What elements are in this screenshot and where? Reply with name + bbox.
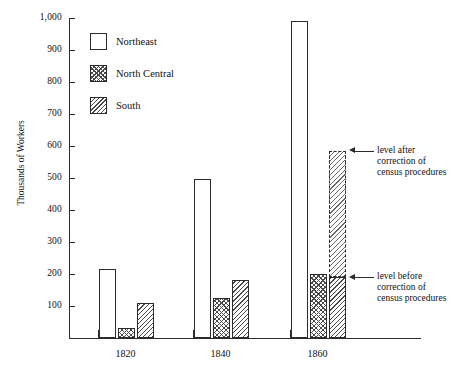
y-tick-label: 500 [22,173,62,183]
y-tick-mark [69,114,75,115]
y-tick-mark [69,274,75,275]
bar-south-1860-corrected-extension [329,151,346,277]
legend-item-north-central: North Central [90,60,174,86]
bar-north-central-1820 [118,328,135,338]
y-tick-mark [69,82,75,83]
annotation-line: census procedures [377,167,451,178]
y-tick-mark [69,178,75,179]
y-tick-mark [69,18,75,19]
legend: NortheastNorth CentralSouth [90,28,174,124]
annotation-line: correction of [377,156,451,167]
y-tick-label: 800 [22,77,62,87]
annotation-level-after: level aftercorrection ofcensus procedure… [377,145,451,178]
legend-swatch-icon [90,97,107,114]
legend-swatch-icon [90,65,107,82]
annotation-line: census procedures [377,293,451,304]
bar-northeast-1820 [99,269,116,338]
annotation-level-before: level beforecorrection ofcensus procedur… [377,271,451,304]
annotation-line: correction of [377,282,451,293]
legend-label: North Central [116,68,174,79]
x-tick-label: 1860 [288,349,348,359]
bar-northeast-1860 [291,21,308,338]
y-tick-label: 300 [22,237,62,247]
y-tick-label: 200 [22,269,62,279]
bar-south-1820 [137,303,154,338]
bar-northeast-1840 [194,179,211,338]
x-tick-label: 1820 [96,349,156,359]
bar-north-central-1860 [310,274,327,338]
legend-label: South [116,100,141,111]
x-axis-line [69,338,421,339]
legend-label: Northeast [116,36,157,47]
annotation-arrow-head-icon [349,147,355,153]
annotation-arrow-line [355,151,374,152]
x-tick-label: 1840 [191,349,251,359]
annotation-arrow-head-icon [349,274,355,280]
y-tick-label: 1,000 [22,13,62,23]
legend-item-south: South [90,92,174,118]
y-tick-label: 600 [22,141,62,151]
y-tick-label: 700 [22,109,62,119]
y-tick-mark [69,50,75,51]
y-tick-label: 900 [22,45,62,55]
y-tick-mark [69,242,75,243]
y-tick-label: 400 [22,205,62,215]
bar-south-1860 [329,277,346,338]
bar-north-central-1840 [213,298,230,338]
legend-swatch-icon [90,33,107,50]
y-tick-mark [69,146,75,147]
annotation-line: level before [377,271,451,282]
legend-item-northeast: Northeast [90,28,174,54]
y-tick-mark [69,210,75,211]
annotation-line: level after [377,145,451,156]
y-tick-mark [69,306,75,307]
bar-south-1840 [232,280,249,338]
annotation-arrow-line [355,277,374,278]
y-tick-label: 100 [22,301,62,311]
